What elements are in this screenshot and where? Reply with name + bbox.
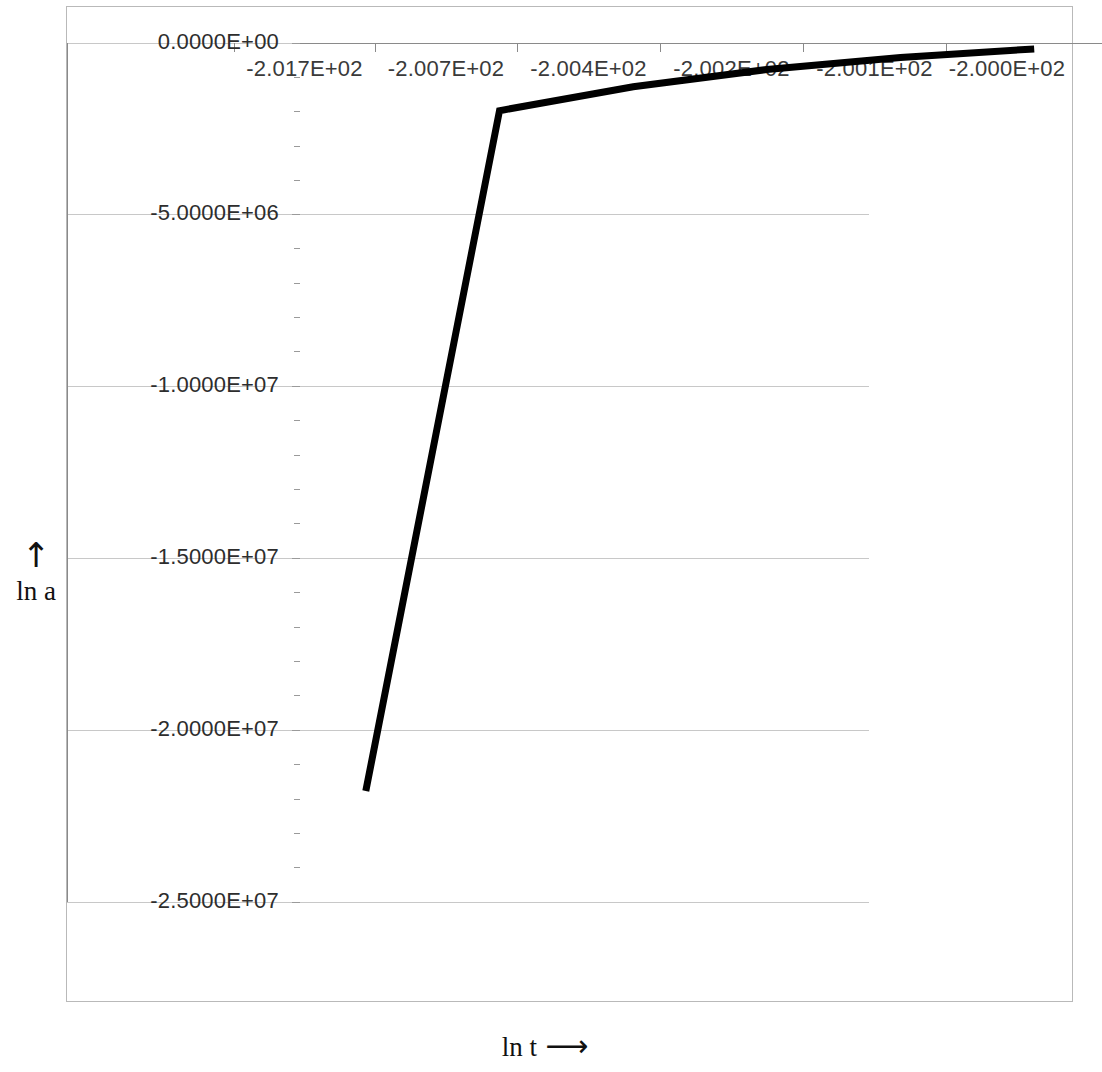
y-axis-line (67, 43, 68, 902)
y-tick-minor (294, 283, 300, 284)
x-tick-2 (517, 43, 518, 52)
y-tick-major-3 (292, 558, 300, 559)
y-axis-title-text: ln a (6, 576, 66, 606)
y-tick-minor (294, 661, 300, 662)
y-tick-minor (294, 489, 300, 490)
y-tick-minor (294, 695, 300, 696)
x-axis-title: ln t⟶ (0, 1028, 1090, 1063)
y-tick-minor (294, 146, 300, 147)
y-tick-minor (294, 523, 300, 524)
y-tick-major-5 (292, 902, 300, 903)
x-tick-4 (803, 43, 804, 52)
y-tick-major-4 (292, 730, 300, 731)
x-tick-label: -2.000E+02 (946, 56, 1068, 82)
y-tick-minor (294, 833, 300, 834)
y-tick-label: 0.0000E+00 (7, 29, 279, 55)
x-tick-3 (660, 43, 661, 52)
y-tick-major-0 (292, 43, 300, 44)
x-tick-label: -2.007E+02 (375, 56, 517, 82)
y-tick-label: -1.0000E+07 (7, 372, 279, 398)
right-arrow-icon: ⟶ (537, 1028, 588, 1063)
y-tick-major-2 (292, 386, 300, 387)
y-tick-minor (294, 111, 300, 112)
x-tick-1 (375, 43, 376, 52)
y-tick-minor (294, 455, 300, 456)
up-arrow-icon: ↑ (6, 534, 66, 576)
y-tick-minor (294, 627, 300, 628)
x-tick-label: -2.002E+02 (660, 56, 803, 82)
y-tick-minor (294, 592, 300, 593)
y-tick-minor (294, 180, 300, 181)
y-tick-minor (294, 867, 300, 868)
x-tick-label: -2.017E+02 (234, 56, 375, 82)
y-tick-minor (294, 248, 300, 249)
x-tick-label: -2.001E+02 (803, 56, 946, 82)
y-tick-label: -2.0000E+07 (7, 716, 279, 742)
x-tick-5 (946, 43, 947, 52)
y-tick-minor (294, 317, 300, 318)
y-tick-minor (294, 799, 300, 800)
chart-frame: 0.0000E+00 -5.0000E+06 -1.0000E+07 -1.50… (66, 6, 1073, 1002)
y-tick-major-1 (292, 214, 300, 215)
y-tick-minor (294, 764, 300, 765)
x-axis-line (300, 43, 1102, 44)
y-tick-label: -5.0000E+06 (7, 200, 279, 226)
y-tick-label: -2.5000E+07 (7, 888, 279, 914)
y-tick-minor (294, 420, 300, 421)
x-axis-title-text: ln t (502, 1032, 537, 1062)
y-tick-minor (294, 351, 300, 352)
x-tick-label: -2.004E+02 (517, 56, 660, 82)
y-axis-title: ↑ ln a (6, 534, 66, 606)
